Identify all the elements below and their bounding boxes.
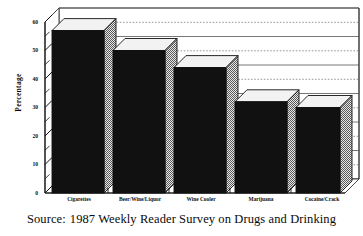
y-axis-title: Percentage	[14, 53, 23, 133]
bar-chart: Percentage 60 50 40 30 20 10 0	[0, 0, 363, 214]
x-tick-label-wine-cooler: Wine Cooler	[169, 196, 233, 202]
chart-canvas	[0, 0, 363, 214]
y-tick-label-0: 0	[18, 190, 38, 196]
y-tick-label-30: 30	[18, 104, 38, 110]
x-tick-label-beer-wine-liquor: Beer/Wine/Liquor	[101, 196, 179, 202]
bar-cocaine-crack[interactable]	[296, 96, 352, 194]
source-label: Source:	[27, 212, 66, 226]
bar-wine-cooler[interactable]	[174, 56, 238, 193]
y-tick-label-60: 60	[18, 19, 38, 25]
y-tick-label-50: 50	[18, 47, 38, 53]
y-tick-label-20: 20	[18, 133, 38, 139]
bar-beer-wine-liquor[interactable]	[113, 39, 177, 194]
source-text: 1987 Weekly Reader Survey on Drugs and D…	[70, 212, 336, 226]
bar-marijuana[interactable]	[235, 90, 299, 193]
x-tick-label-cocaine-crack: Cocaine/Crack	[286, 196, 358, 202]
y-tick-label-40: 40	[18, 76, 38, 82]
bar-cigarettes[interactable]	[52, 19, 116, 193]
x-tick-label-marijuana: Marijuana	[229, 196, 293, 202]
source-caption: Source:1987 Weekly Reader Survey on Drug…	[0, 212, 363, 227]
y-tick-label-10: 10	[18, 161, 38, 167]
